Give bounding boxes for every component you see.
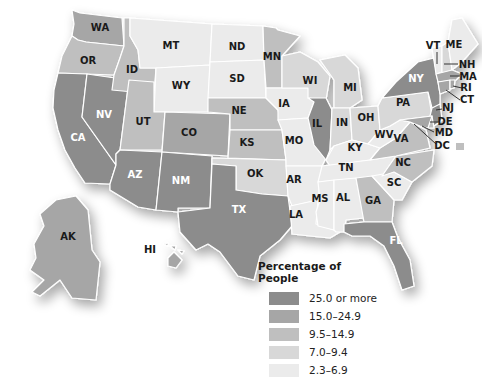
label-UT: UT	[136, 116, 151, 127]
label-HI: HI	[144, 244, 156, 255]
label-OR: OR	[80, 55, 97, 66]
label-VT: VT	[426, 40, 441, 51]
label-OH: OH	[358, 112, 375, 123]
legend-swatch	[269, 346, 299, 359]
label-MO: MO	[285, 135, 303, 146]
dc-swatch	[456, 143, 464, 150]
legend-item: 25.0 or more	[258, 290, 378, 306]
label-MN: MN	[263, 51, 281, 62]
label-RI: RI	[460, 82, 471, 93]
state-RI[interactable]	[450, 80, 455, 89]
map-legend: Percentage of People 25.0 or more 15.0–2…	[258, 260, 378, 380]
label-CO: CO	[181, 127, 197, 138]
legend-label: 9.5–14.9	[309, 328, 354, 340]
label-MT: MT	[163, 40, 180, 51]
legend-item: 15.0–24.9	[258, 308, 378, 324]
label-IL: IL	[312, 118, 323, 129]
label-GA: GA	[365, 195, 381, 206]
label-NE: NE	[231, 105, 246, 116]
legend-item: 2.3–6.9	[258, 362, 378, 378]
legend-title: Percentage of People	[258, 260, 378, 284]
label-NY: NY	[408, 73, 424, 84]
legend-item: 7.0–9.4	[258, 344, 378, 360]
state-HI[interactable]	[164, 243, 184, 268]
label-CA: CA	[70, 132, 85, 143]
legend-swatch	[269, 328, 299, 341]
label-ID: ID	[126, 64, 138, 75]
legend-label: 2.3–6.9	[309, 364, 348, 376]
label-NV: NV	[96, 109, 112, 120]
legend-label: 25.0 or more	[309, 292, 377, 304]
label-AL: AL	[336, 192, 351, 203]
label-SD: SD	[229, 73, 245, 84]
legend-label: 7.0–9.4	[309, 346, 348, 358]
label-WI: WI	[303, 75, 318, 86]
label-VA: VA	[394, 133, 409, 144]
label-FL: FL	[389, 235, 403, 246]
label-MD: MD	[435, 127, 453, 138]
label-ME: ME	[446, 39, 463, 50]
label-KS: KS	[240, 137, 255, 148]
label-AZ: AZ	[128, 169, 143, 180]
label-TN: TN	[338, 162, 353, 173]
state-AZ[interactable]	[110, 150, 162, 210]
state-AK[interactable]	[30, 196, 100, 300]
label-WA: WA	[91, 22, 110, 33]
label-MS: MS	[311, 193, 328, 204]
label-KY: KY	[348, 142, 364, 153]
label-SC: SC	[387, 177, 402, 188]
label-DE: DE	[437, 116, 452, 127]
label-TX: TX	[232, 204, 247, 215]
label-LA: LA	[289, 209, 303, 220]
state-KS[interactable]	[228, 130, 286, 160]
label-AK: AK	[60, 231, 77, 242]
legend-swatch	[269, 310, 299, 323]
label-OK: OK	[247, 168, 265, 179]
label-IN: IN	[336, 117, 348, 128]
label-WV: WV	[375, 129, 394, 140]
legend-label: 15.0–24.9	[309, 310, 361, 322]
state-MS[interactable]	[316, 180, 334, 230]
label-MI: MI	[343, 82, 357, 93]
label-NH: NH	[459, 59, 476, 70]
leader-ct	[446, 90, 460, 100]
legend-swatch	[269, 364, 299, 377]
legend-swatch	[269, 292, 299, 305]
label-WY: WY	[172, 80, 191, 91]
label-NM: NM	[172, 175, 190, 186]
label-ND: ND	[229, 41, 246, 52]
legend-item: 9.5–14.9	[258, 326, 378, 342]
label-PA: PA	[396, 97, 410, 108]
label-DC: DC	[434, 140, 450, 151]
label-NC: NC	[395, 157, 411, 168]
label-MA: MA	[459, 71, 477, 82]
label-IA: IA	[278, 98, 290, 109]
label-NJ: NJ	[442, 102, 454, 113]
label-CT: CT	[460, 94, 474, 105]
label-AR: AR	[286, 174, 302, 185]
